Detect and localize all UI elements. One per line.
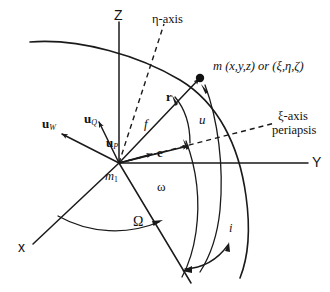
u-q-subscript: Q: [91, 118, 97, 127]
orbital-elements-diagram: Z Y x η-axis ξ-axis periapsis m (x,y,z) …: [0, 0, 330, 292]
u-p-subscript: P: [113, 142, 118, 151]
raan-label: Ω: [133, 215, 143, 229]
vector-u-w-label: uW: [42, 117, 56, 132]
xi-axis-label: ξ-axis: [278, 110, 308, 123]
orbit-path: [30, 41, 248, 278]
eta-axis-dashed: [119, 24, 164, 163]
central-body-label: m1: [105, 170, 118, 184]
point-m-marker: [196, 74, 204, 82]
vector-r-label: r: [166, 90, 172, 103]
vector-u-p-label: uP: [106, 136, 118, 151]
axis-x-label: x: [18, 240, 25, 254]
vector-e: [119, 146, 188, 163]
axis-z-label: Z: [114, 8, 123, 22]
vector-u-q-label: uQ: [84, 112, 97, 127]
u-w-subscript: W: [49, 123, 56, 132]
argument-of-periapsis-label: ω: [157, 180, 166, 193]
vector-e-label: e: [157, 146, 163, 159]
true-anomaly-label: f: [144, 117, 148, 130]
diagram-canvas: [0, 0, 330, 292]
argument-of-latitude-label: u: [199, 113, 206, 126]
arc-raan-arrowhead: [152, 220, 163, 226]
arc-argument-of-periapsis: [182, 141, 198, 277]
central-body-subscript: 1: [114, 175, 118, 184]
arc-inclination: [185, 245, 228, 269]
arc-raan: [58, 216, 159, 231]
eta-axis-label: η-axis: [152, 13, 183, 26]
inclination-label: i: [229, 222, 232, 235]
periapsis-label: periapsis: [272, 124, 316, 137]
point-m-label: m (x,y,z) or (ξ,η,ζ): [213, 60, 304, 73]
central-body-symbol: m: [105, 169, 114, 183]
axis-y-label: Y: [312, 155, 321, 169]
